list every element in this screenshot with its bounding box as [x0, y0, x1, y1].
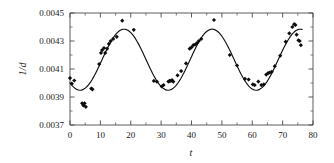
- x-axis-ticks: [70, 13, 313, 125]
- data-point: [175, 73, 179, 77]
- data-point: [212, 18, 216, 22]
- x-tick-label: 10: [96, 130, 106, 140]
- data-point: [72, 78, 76, 82]
- scatter-plot: 01020304050607080 0.00370.00390.00410.00…: [0, 0, 334, 163]
- x-tick-label: 50: [217, 130, 227, 140]
- x-tick-label: 80: [309, 130, 319, 140]
- x-tick-label: 60: [248, 130, 258, 140]
- data-point: [103, 51, 107, 55]
- data-point: [243, 77, 247, 81]
- data-point: [120, 19, 124, 23]
- y-axis-ticks: [70, 13, 313, 125]
- x-tick-label: 0: [68, 130, 73, 140]
- data-point: [179, 69, 183, 73]
- x-tick-label: 70: [278, 130, 288, 140]
- y-tick-label: 0.0041: [39, 64, 64, 74]
- data-point: [299, 43, 303, 47]
- data-point: [278, 54, 282, 58]
- data-points: [68, 18, 303, 109]
- y-tick-label: 0.0037: [39, 120, 64, 130]
- y-tick-label: 0.0043: [39, 36, 64, 46]
- x-tick-label: 40: [187, 130, 197, 140]
- x-tick-label: 30: [157, 130, 167, 140]
- data-point: [294, 33, 298, 37]
- y-axis-tick-labels: 0.00370.00390.00410.00430.0045: [39, 8, 64, 130]
- x-tick-label: 20: [126, 130, 136, 140]
- chart-figure: 01020304050607080 0.00370.00390.00410.00…: [0, 0, 334, 163]
- x-axis-title: t: [190, 147, 193, 158]
- y-axis-title: 1/d: [17, 62, 28, 76]
- data-point: [132, 28, 136, 32]
- plot-frame: [70, 13, 313, 125]
- data-point: [287, 31, 291, 35]
- y-tick-label: 0.0039: [39, 92, 64, 102]
- data-point: [247, 77, 251, 81]
- x-axis-tick-labels: 01020304050607080: [68, 130, 318, 140]
- data-point: [68, 76, 72, 80]
- data-point: [284, 40, 288, 44]
- y-tick-label: 0.0045: [39, 8, 64, 18]
- data-point: [256, 80, 260, 84]
- fitted-curve: [70, 29, 302, 90]
